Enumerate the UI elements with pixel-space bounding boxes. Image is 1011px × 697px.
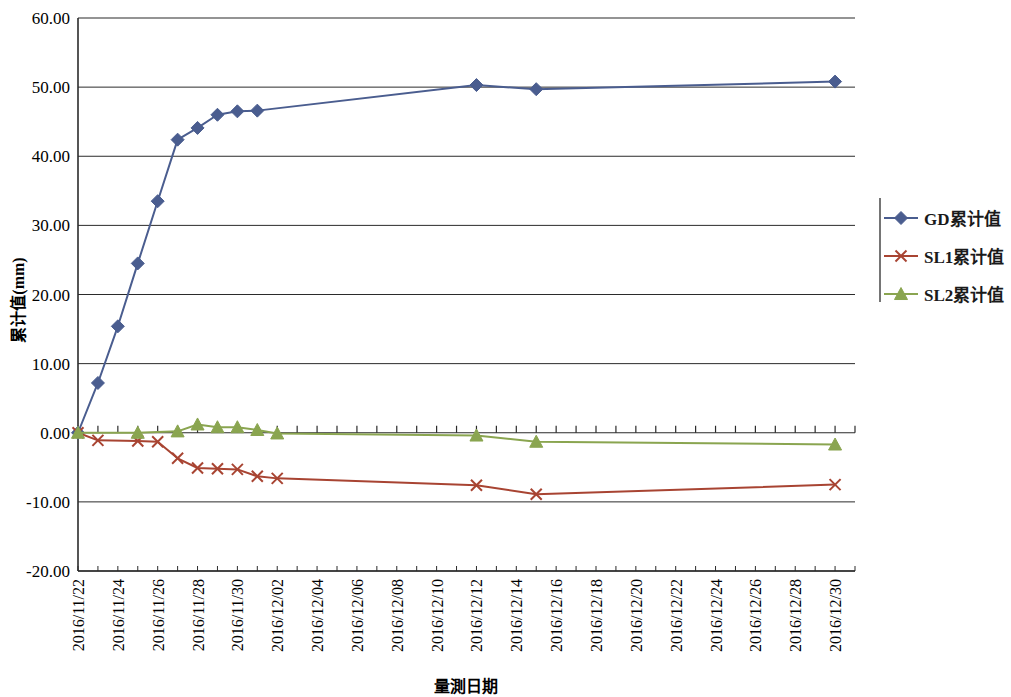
data-point-marker bbox=[231, 105, 244, 118]
data-point-marker bbox=[191, 418, 204, 430]
x-axis-title: 量測日期 bbox=[434, 677, 498, 695]
legend-item-GD累计值: GD累计值 bbox=[884, 209, 1001, 229]
x-tick-label: 2016/11/26 bbox=[150, 579, 167, 651]
x-tick-label: 2016/12/22 bbox=[668, 579, 685, 652]
y-tick-label: 0.00 bbox=[40, 424, 70, 443]
series-SL1累计值 bbox=[73, 427, 841, 500]
legend-item-SL1累计值: SL1累计值 bbox=[884, 247, 1004, 267]
data-series-group bbox=[72, 75, 842, 500]
data-point-marker bbox=[111, 320, 124, 333]
data-point-marker bbox=[91, 376, 104, 389]
line-chart: 60.0050.0040.0030.0020.0010.000.00-10.00… bbox=[0, 0, 1011, 697]
x-tick-label: 2016/11/28 bbox=[190, 579, 207, 651]
x-axis-title-group: 量測日期 bbox=[434, 677, 498, 695]
y-axis-tick-labels: 60.0050.0040.0030.0020.0010.000.00-10.00… bbox=[26, 9, 70, 581]
x-tick-label: 2016/12/24 bbox=[708, 579, 725, 652]
x-axis-tick-labels: 2016/11/222016/11/242016/11/262016/11/28… bbox=[70, 579, 844, 652]
y-tick-label: 30.00 bbox=[32, 216, 70, 235]
x-tick-label: 2016/12/04 bbox=[309, 579, 326, 652]
x-tick-label: 2016/12/30 bbox=[827, 579, 844, 652]
legend-label: SL1累计值 bbox=[924, 247, 1004, 267]
series-SL2累计值 bbox=[72, 418, 842, 450]
x-tick-label: 2016/12/26 bbox=[747, 579, 764, 652]
x-tick-label: 2016/12/10 bbox=[429, 579, 446, 652]
data-point-marker bbox=[470, 79, 483, 92]
y-axis-title-group: 累计值(mm) bbox=[9, 257, 28, 342]
x-tick-label: 2016/12/28 bbox=[787, 579, 804, 652]
data-point-marker bbox=[172, 453, 183, 464]
y-tick-label: 20.00 bbox=[32, 286, 70, 305]
data-point-marker bbox=[151, 195, 164, 208]
data-point-marker bbox=[895, 212, 908, 225]
data-point-marker bbox=[211, 108, 224, 121]
y-tick-label: 10.00 bbox=[32, 355, 70, 374]
legend-label: SL2累计值 bbox=[924, 285, 1004, 305]
x-tick-label: 2016/12/06 bbox=[349, 579, 366, 652]
data-point-marker bbox=[530, 83, 543, 96]
x-tick-label: 2016/11/22 bbox=[70, 579, 87, 651]
x-tick-label: 2016/12/16 bbox=[548, 579, 565, 652]
data-point-marker bbox=[131, 257, 144, 270]
data-point-marker bbox=[251, 104, 264, 117]
series-GD累计值 bbox=[72, 75, 842, 439]
y-tick-label: 40.00 bbox=[32, 147, 70, 166]
x-tick-label: 2016/12/14 bbox=[508, 579, 525, 652]
x-tick-label: 2016/11/24 bbox=[110, 579, 127, 651]
legend-label: GD累计值 bbox=[924, 209, 1001, 229]
x-tick-marks-group bbox=[78, 426, 855, 571]
data-point-marker bbox=[171, 133, 184, 146]
y-tick-label: -20.00 bbox=[26, 562, 70, 581]
y-tick-label: -10.00 bbox=[26, 493, 70, 512]
data-point-marker bbox=[829, 75, 842, 88]
chart-container: 60.0050.0040.0030.0020.0010.000.00-10.00… bbox=[0, 0, 1011, 697]
chart-legend: GD累计值SL1累计值SL2累计值 bbox=[880, 198, 1004, 305]
legend-item-SL2累计值: SL2累计值 bbox=[884, 285, 1004, 305]
x-tick-label: 2016/11/30 bbox=[229, 579, 246, 651]
x-tick-label: 2016/12/18 bbox=[588, 579, 605, 652]
x-tick-label: 2016/12/20 bbox=[628, 579, 645, 652]
series-line bbox=[78, 433, 835, 495]
x-tick-label: 2016/12/08 bbox=[389, 579, 406, 652]
data-point-marker bbox=[191, 121, 204, 134]
y-axis-title: 累计值(mm) bbox=[9, 257, 28, 342]
x-tick-label: 2016/12/12 bbox=[468, 579, 485, 652]
y-tick-label: 50.00 bbox=[32, 78, 70, 97]
x-tick-label: 2016/12/02 bbox=[269, 579, 286, 652]
series-line bbox=[78, 82, 835, 433]
y-tick-label: 60.00 bbox=[32, 9, 70, 28]
